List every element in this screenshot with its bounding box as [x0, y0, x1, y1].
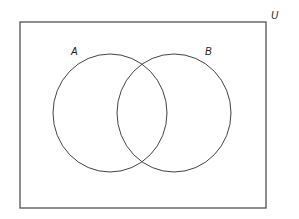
set-b-label: B [205, 47, 212, 57]
set-a-label: A [71, 47, 78, 57]
universe-label: U [271, 11, 278, 21]
venn-diagram [0, 0, 299, 219]
set-a-circle [53, 54, 167, 172]
universe-rectangle [20, 22, 266, 208]
set-b-circle [117, 54, 231, 172]
